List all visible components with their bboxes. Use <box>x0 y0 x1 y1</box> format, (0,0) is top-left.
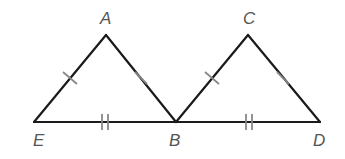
label-A: A <box>99 9 111 28</box>
label-B: B <box>169 131 180 150</box>
geometry-diagram: A C E B D <box>0 0 345 159</box>
label-C: C <box>243 9 256 28</box>
tick-mark-AB <box>135 72 147 84</box>
label-D: D <box>313 131 325 150</box>
tick-mark-CD <box>277 72 289 84</box>
label-E: E <box>33 131 45 150</box>
